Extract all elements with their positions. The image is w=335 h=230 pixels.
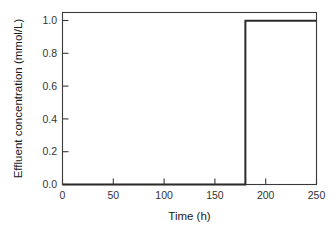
y-tick-label: 1.0 [42, 14, 57, 26]
x-tick-label: 250 [308, 189, 326, 201]
y-tick-labels: 0.0 0.2 0.4 0.6 0.8 1.0 [42, 14, 57, 190]
x-axis-title: Time (h) [168, 210, 211, 222]
plot-frame [63, 13, 317, 185]
y-tick-label: 0.0 [42, 178, 57, 190]
line-chart: 0.0 0.2 0.4 0.6 0.8 1.0 0 50 100 150 200… [0, 0, 335, 230]
x-tick-label: 100 [155, 189, 173, 201]
y-tick-label: 0.2 [42, 145, 57, 157]
x-tick-label: 0 [60, 189, 66, 201]
x-tick-label: 150 [206, 189, 224, 201]
y-tick-marks [63, 21, 69, 185]
y-tick-label: 0.8 [42, 47, 57, 59]
chart-figure: 0.0 0.2 0.4 0.6 0.8 1.0 0 50 100 150 200… [0, 0, 335, 230]
y-tick-label: 0.6 [42, 80, 57, 92]
x-tick-label: 50 [107, 189, 119, 201]
y-tick-label: 0.4 [42, 113, 57, 125]
x-tick-label: 200 [257, 189, 275, 201]
y-axis-title: Effluent concentration (mmol/L) [12, 19, 24, 179]
data-series-line [63, 21, 317, 185]
x-tick-labels: 0 50 100 150 200 250 [60, 189, 326, 201]
